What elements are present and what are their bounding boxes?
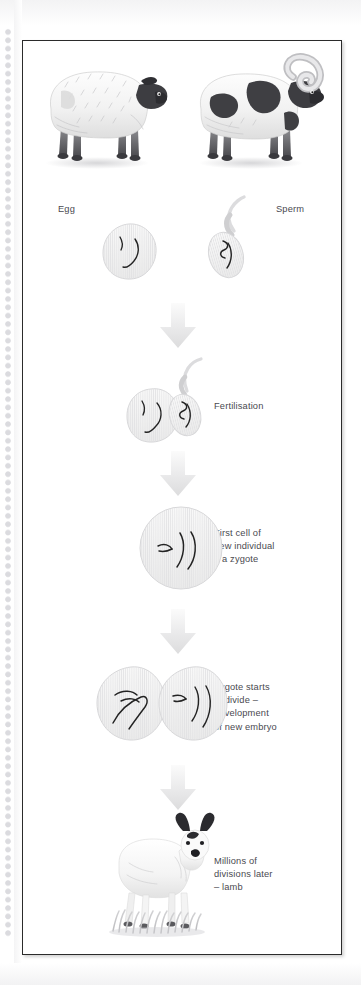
sperm-label: Sperm bbox=[276, 203, 304, 216]
ram-illustration bbox=[181, 47, 331, 175]
page-left-shade bbox=[14, 0, 22, 985]
arrow-to-zygote bbox=[159, 451, 197, 497]
lamb-illustration bbox=[95, 801, 225, 941]
stage-zygote: First cell of new individual – a zygote bbox=[23, 499, 341, 609]
stage-fertilisation: Fertilisation bbox=[23, 353, 341, 458]
stage-parents bbox=[23, 41, 341, 191]
zygote-cell bbox=[136, 503, 226, 593]
arrow-to-fertilisation bbox=[159, 303, 197, 349]
stage-lamb: Millions of divisions later – lamb bbox=[23, 801, 341, 951]
egg-label: Egg bbox=[58, 203, 75, 216]
page-bottom-shade bbox=[0, 963, 361, 985]
sperm-cell bbox=[198, 195, 268, 287]
fertilisation-cells bbox=[123, 357, 243, 457]
spiral-binding-holes bbox=[4, 28, 12, 938]
page-background: Egg Sperm bbox=[0, 0, 361, 985]
stage-division: Zygote starts to divide – development of… bbox=[23, 659, 341, 769]
stage-gametes: Egg Sperm bbox=[23, 191, 341, 306]
arrow-to-division bbox=[159, 609, 197, 655]
figure-frame: Egg Sperm bbox=[22, 40, 342, 955]
egg-cell bbox=[99, 221, 161, 285]
ewe-illustration bbox=[31, 53, 171, 173]
division-cells bbox=[91, 661, 241, 753]
page-top-shade bbox=[0, 0, 361, 26]
